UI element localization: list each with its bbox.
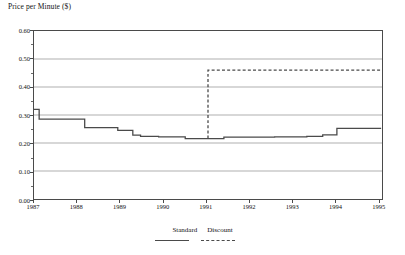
- x-tick-label: 1993: [286, 203, 299, 211]
- chart-legend: StandardDiscount: [0, 226, 405, 248]
- x-tick-label: 1994: [329, 203, 342, 211]
- legend-keys: [0, 238, 405, 244]
- y-tick-label: 0.10: [4, 168, 30, 175]
- x-axis-tick-labels: 198719881989199019911992199319941995: [0, 203, 405, 215]
- x-tick-label: 1989: [113, 203, 126, 211]
- y-tick-label: 0.50: [4, 55, 30, 62]
- x-tick-label: 1990: [156, 203, 169, 211]
- y-tick-label: 0.40: [4, 83, 30, 90]
- series-layer: [34, 31, 382, 199]
- y-axis-tick-labels: 0.000.100.200.300.400.500.60: [0, 30, 30, 200]
- plot-area: [33, 30, 383, 200]
- x-tick-label: 1991: [199, 203, 212, 211]
- chart-title: Price per Minute ($): [8, 2, 71, 11]
- legend-labels: StandardDiscount: [0, 226, 405, 235]
- y-tick-label: 0.30: [4, 112, 30, 119]
- y-tick-label: 0.60: [4, 27, 30, 34]
- legend-label-standard: Standard: [167, 226, 202, 235]
- x-tick-label: 1992: [243, 203, 256, 211]
- x-tick-label: 1987: [27, 203, 40, 211]
- legend-key-standard-line: [155, 240, 189, 241]
- data-series: [34, 70, 381, 138]
- legend-key-discount-line: [201, 240, 235, 241]
- y-tick-label: 0.20: [4, 140, 30, 147]
- x-tick-label: 1988: [70, 203, 83, 211]
- legend-label-discount: Discount: [202, 226, 237, 235]
- series-line-standard: [34, 109, 381, 138]
- chart-figure: Price per Minute ($) 0.000.100.200.300.4…: [0, 0, 405, 255]
- x-tick-label: 1995: [372, 203, 385, 211]
